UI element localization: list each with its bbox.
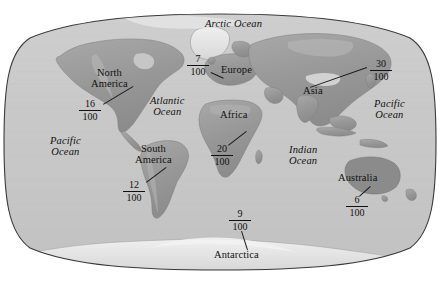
- label-pacific-right-line2: Ocean: [375, 109, 403, 120]
- label-pacific-ocean-left: Pacific Ocean: [50, 136, 81, 157]
- fraction-asia-denominator: 100: [368, 72, 394, 82]
- world-map-figure: Arctic Ocean Atlantic Ocean Pacific Ocea…: [0, 0, 440, 284]
- fraction-africa-leader-line: [228, 131, 247, 146]
- label-north-america-line1: North: [97, 67, 122, 78]
- label-australia: Australia: [338, 173, 377, 184]
- fraction-antarctica-leader-line: [241, 231, 248, 250]
- fraction-north-america-numerator: 16: [77, 99, 103, 109]
- label-atlantic-ocean: Atlantic Ocean: [150, 96, 184, 117]
- label-antarctica: Antarctica: [214, 250, 259, 261]
- map-label-layer: Arctic Ocean Atlantic Ocean Pacific Ocea…: [0, 0, 440, 284]
- fraction-greenland-numerator: 7: [185, 54, 211, 64]
- fraction-asia-leader-line: [310, 67, 367, 88]
- fraction-australia: 6 100: [344, 195, 370, 218]
- label-north-america: North America: [91, 68, 128, 89]
- fraction-greenland-denominator: 100: [185, 67, 211, 77]
- label-pacific-right-line1: Pacific: [374, 98, 405, 109]
- fraction-australia-numerator: 6: [344, 195, 370, 205]
- label-pacific-left-line1: Pacific: [50, 135, 81, 146]
- label-indian-ocean-line1: Indian: [289, 144, 317, 155]
- label-asia: Asia: [303, 86, 323, 97]
- label-pacific-left-line2: Ocean: [51, 146, 79, 157]
- label-north-america-line2: America: [91, 78, 128, 89]
- fraction-australia-denominator: 100: [344, 208, 370, 218]
- fraction-africa-denominator: 100: [209, 157, 235, 167]
- label-europe: Europe: [221, 65, 252, 76]
- label-south-america-line1: South: [141, 143, 166, 154]
- label-south-america: South America: [135, 144, 172, 165]
- fraction-greenland: 7 100: [185, 54, 211, 77]
- label-atlantic-ocean-line1: Atlantic: [150, 95, 184, 106]
- fraction-antarctica: 9 100: [227, 209, 253, 232]
- fraction-asia: 30 100: [368, 59, 394, 82]
- fraction-antarctica-numerator: 9: [227, 209, 253, 219]
- fraction-south-america-leader-line: [146, 167, 167, 183]
- label-arctic-ocean: Arctic Ocean: [205, 19, 262, 30]
- label-africa: Africa: [220, 110, 247, 121]
- fraction-north-america-denominator: 100: [77, 112, 103, 122]
- fraction-africa-numerator: 20: [209, 144, 235, 154]
- fraction-south-america: 12 100: [121, 180, 147, 203]
- label-indian-ocean: Indian Ocean: [289, 145, 317, 166]
- label-pacific-ocean-right: Pacific Ocean: [374, 99, 405, 120]
- fraction-africa: 20 100: [209, 144, 235, 167]
- fraction-north-america: 16 100: [77, 99, 103, 122]
- fraction-asia-numerator: 30: [368, 59, 394, 69]
- fraction-south-america-numerator: 12: [121, 180, 147, 190]
- label-atlantic-ocean-line2: Ocean: [153, 106, 181, 117]
- label-south-america-line2: America: [135, 154, 172, 165]
- label-indian-ocean-line2: Ocean: [289, 155, 317, 166]
- fraction-south-america-denominator: 100: [121, 193, 147, 203]
